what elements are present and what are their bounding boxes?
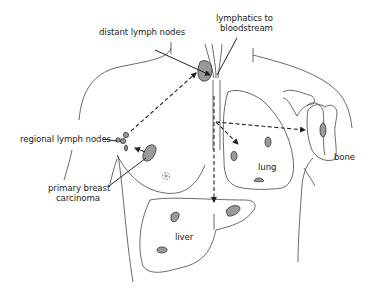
regional-node-4 bbox=[125, 145, 128, 151]
leader-lymphatics bbox=[217, 38, 237, 75]
liver-lesion-1 bbox=[171, 212, 179, 222]
leader-lines bbox=[103, 38, 237, 186]
lung-lesion-1 bbox=[265, 137, 271, 147]
label-distant-lymph-nodes: distant lymph nodes bbox=[99, 27, 185, 37]
label-lung: lung bbox=[258, 162, 276, 172]
bone-lesion bbox=[320, 123, 326, 137]
lung-outline bbox=[223, 90, 293, 189]
regional-node-3 bbox=[116, 138, 120, 142]
leader-primary bbox=[109, 158, 146, 186]
label-liver: liver bbox=[175, 232, 193, 242]
arrow-primary-to-regional bbox=[135, 148, 145, 152]
liver-lesion-2 bbox=[226, 206, 240, 217]
label-primary-line2: carcinoma bbox=[56, 193, 100, 203]
anatomy-illustration bbox=[0, 0, 367, 298]
label-lymphatics-line2: bloodstream bbox=[220, 23, 273, 33]
lesions bbox=[116, 61, 326, 253]
arrow-to-bone bbox=[216, 122, 305, 130]
regional-node-2 bbox=[120, 138, 125, 143]
label-regional-lymph-nodes: regional lymph nodes bbox=[20, 134, 111, 144]
metastasis-arrows bbox=[131, 73, 305, 202]
label-lymphatics-line1: lymphatics to bbox=[216, 13, 273, 23]
arrow-to-lung bbox=[216, 122, 238, 144]
arrow-regional-to-distant bbox=[131, 73, 196, 131]
lung-lesion-2 bbox=[231, 152, 237, 161]
metastasis-diagram: distant lymph nodes lymphatics to bloods… bbox=[0, 0, 367, 298]
lung-lesion-3 bbox=[254, 178, 264, 182]
liver-lesion-3 bbox=[157, 247, 167, 253]
label-primary-line1: primary breast bbox=[48, 183, 110, 193]
nipple-symbol bbox=[163, 173, 170, 180]
label-bone: bone bbox=[334, 152, 355, 162]
regional-node-1 bbox=[123, 132, 128, 137]
